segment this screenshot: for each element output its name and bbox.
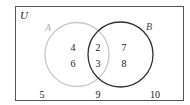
element-b-only: 7 [122, 42, 127, 53]
element-a-only: 6 [71, 58, 76, 69]
element-b-only: 8 [122, 58, 127, 69]
set-b-label: B [146, 21, 152, 32]
element-intersection: 2 [96, 42, 101, 53]
element-outside: 10 [150, 89, 160, 100]
universe-rectangle [16, 7, 184, 101]
venn-svg: U A B 4 6 2 3 7 8 5 9 10 [0, 0, 190, 105]
set-a-label: A [44, 22, 52, 33]
element-a-only: 4 [71, 42, 76, 53]
universe-label: U [20, 9, 29, 21]
element-outside: 5 [40, 89, 45, 100]
element-intersection: 3 [96, 58, 101, 69]
venn-diagram: U A B 4 6 2 3 7 8 5 9 10 [0, 0, 190, 105]
element-outside: 9 [96, 89, 101, 100]
